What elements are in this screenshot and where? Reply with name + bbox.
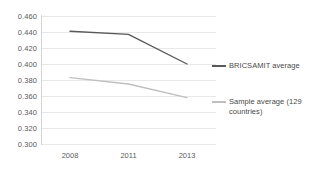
legend-swatch-bricsamit [212, 65, 226, 67]
legend-swatch-sample-average [212, 101, 226, 103]
line-chart: 0.4600.4400.4200.4000.3800.3600.3400.320… [0, 0, 323, 185]
legend-item-bricsamit[interactable]: BRICSAMIT average [212, 61, 300, 71]
series-line [70, 31, 187, 64]
legend-item-sample-average[interactable]: Sample average (129 countries) [212, 97, 320, 116]
series-line [70, 78, 187, 98]
legend-label-bricsamit: BRICSAMIT average [229, 61, 300, 71]
plot-area [0, 0, 323, 185]
legend-label-sample-average: Sample average (129 countries) [229, 97, 320, 116]
